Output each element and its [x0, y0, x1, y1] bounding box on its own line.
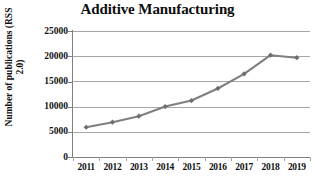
- x-tick-label: 2011: [73, 162, 99, 180]
- y-tick-label: 25000: [24, 26, 68, 36]
- data-point-2013: [136, 114, 141, 119]
- x-tick-label: 2013: [126, 162, 152, 180]
- y-tick-label: 10000: [24, 101, 68, 111]
- x-tick-label: 2015: [178, 162, 204, 180]
- data-point-2011: [84, 125, 89, 130]
- x-axis-tick-labels: 2011 2012 2013 2014 2015 2016 2017 2018 …: [73, 162, 310, 180]
- data-point-2012: [110, 120, 115, 125]
- x-tick-mark: [310, 157, 311, 161]
- y-tick-label: 5000: [24, 126, 68, 136]
- y-axis-tick-labels: 25000 20000 15000 10000 5000 0: [18, 0, 68, 184]
- y-tick-label: 0: [24, 152, 68, 162]
- x-tick-mark: [284, 157, 285, 161]
- y-tick-label: 20000: [24, 51, 68, 61]
- x-tick-mark: [205, 157, 206, 161]
- series-line-publications: [73, 31, 310, 157]
- data-point-2019: [294, 55, 299, 60]
- chart-figure: Additive Manufacturing Number of publica…: [0, 0, 315, 184]
- x-tick-label: 2016: [205, 162, 231, 180]
- x-tick-label: 2018: [257, 162, 283, 180]
- x-tick-label: 2019: [284, 162, 310, 180]
- x-tick-mark: [231, 157, 232, 161]
- x-tick-mark: [126, 157, 127, 161]
- y-axis-title-line-1: Number of publications (RSS: [4, 8, 14, 127]
- x-tick-label: 2017: [231, 162, 257, 180]
- y-axis-line: [72, 30, 73, 158]
- x-tick-label: 2012: [99, 162, 125, 180]
- data-point-2014: [163, 104, 168, 109]
- series-polyline: [86, 55, 297, 127]
- series-markers: [84, 53, 300, 130]
- x-tick-mark: [73, 157, 74, 161]
- x-axis-line: [72, 157, 310, 158]
- x-tick-label: 2014: [152, 162, 178, 180]
- x-tick-mark: [99, 157, 100, 161]
- x-tick-mark: [178, 157, 179, 161]
- x-tick-mark: [257, 157, 258, 161]
- y-tick-label: 15000: [24, 76, 68, 86]
- x-tick-mark: [152, 157, 153, 161]
- plot-area: [73, 31, 310, 157]
